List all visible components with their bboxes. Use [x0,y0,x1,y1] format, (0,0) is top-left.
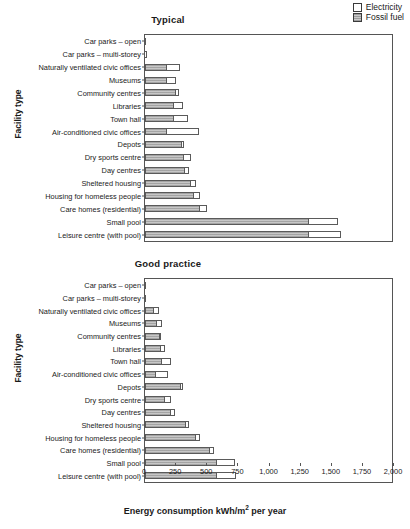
stacked-bar[interactable] [145,320,162,327]
x-axis-tick [362,463,363,466]
stacked-bar[interactable] [145,128,199,135]
y-axis-tick [142,374,145,375]
bar-segment-electricity [161,358,171,365]
stacked-bar[interactable] [145,77,176,84]
bar-segment-fossil-fuel [145,383,181,390]
panel-title-typical: Typical [18,14,318,25]
stacked-bar[interactable] [145,396,171,403]
bar-segment-fossil-fuel [145,128,167,135]
bar-segment-fossil-fuel [145,180,191,187]
x-axis-tick [393,463,394,466]
bar-row: Car parks – open [145,35,392,48]
x-axis-tick-label: 1,750 [353,467,372,476]
bar-segment-electricity [199,205,208,212]
bar-segment-fossil-fuel [145,218,309,225]
bar-segment-fossil-fuel [145,192,194,199]
stacked-bar[interactable] [145,307,159,314]
bar-row: Care homes (residential) [145,202,392,215]
y-axis-tick [142,323,145,324]
y-axis-tick-label: Care homes (residential) [60,204,141,213]
bar-segment-electricity [209,447,215,454]
bar-segment-electricity [195,434,200,441]
bar-segment-electricity [173,115,188,122]
stacked-bar[interactable] [145,345,165,352]
y-axis-tick-label: Car parks – open [84,37,141,46]
bar-row: Day centres [145,406,392,419]
stacked-bar[interactable] [145,205,207,212]
y-axis-tick [142,412,145,413]
stacked-bar[interactable] [145,51,147,58]
bar-row: Housing for homeless people [145,190,392,203]
x-axis-tick [206,463,207,466]
legend-swatch-electricity-icon [353,3,362,12]
y-axis-tick-label: Town hall [110,357,141,366]
y-axis-tick-label: Day centres [102,408,141,417]
y-axis-tick-label: Museums [109,319,141,328]
bar-rows-good-practice: Car parks – openCar parks – multi-storey… [145,279,392,482]
bar-segment-fossil-fuel [145,205,200,212]
bar-row: Naturally ventilated civic offices [145,304,392,317]
bar-segment-fossil-fuel [145,396,165,403]
y-axis-tick [142,41,145,42]
stacked-bar[interactable] [145,167,189,174]
stacked-bar[interactable] [145,282,146,289]
stacked-bar[interactable] [145,383,183,390]
stacked-bar[interactable] [145,218,338,225]
y-axis-label-typical: Facility type [13,69,23,159]
bar-segment-electricity [160,345,164,352]
bar-row: Sheltered housing [145,177,392,190]
bar-segment-fossil-fuel [145,333,160,340]
bar-row: Libraries [145,342,392,355]
y-axis-tick-label: Care homes (residential) [60,446,141,455]
y-axis-tick [142,221,145,222]
stacked-bar[interactable] [145,333,161,340]
stacked-bar[interactable] [145,192,200,199]
stacked-bar[interactable] [145,89,179,96]
y-axis-tick-label: Community centres [77,88,141,97]
y-axis-tick [142,105,145,106]
y-axis-tick [142,183,145,184]
y-axis-tick [142,131,145,132]
stacked-bar[interactable] [145,64,180,71]
stacked-bar[interactable] [145,102,183,109]
bar-segment-electricity [190,180,196,187]
y-axis-tick-label: Car parks – open [84,281,141,290]
plot-area-typical: Car parks – openCar parks – multi-storey… [144,34,393,242]
x-axis-label-main: Energy consumption kWh/m [124,506,246,516]
stacked-bar[interactable] [145,154,191,161]
stacked-bar[interactable] [145,472,236,479]
y-axis-tick-label: Museums [109,76,141,85]
bar-rows-typical: Car parks – openCar parks – multi-storey… [145,35,392,241]
stacked-bar[interactable] [145,459,235,466]
stacked-bar[interactable] [145,115,188,122]
stacked-bar[interactable] [145,447,214,454]
stacked-bar[interactable] [145,231,341,238]
bar-row: Day centres [145,164,392,177]
stacked-bar[interactable] [145,421,189,428]
bar-segment-fossil-fuel [145,358,162,365]
stacked-bar[interactable] [145,371,168,378]
y-axis-tick-label: Dry sports centre [85,153,141,162]
bar-segment-fossil-fuel [145,421,186,428]
stacked-bar[interactable] [145,409,175,416]
stacked-bar[interactable] [145,38,146,45]
y-axis-tick [142,336,145,337]
y-axis-tick-label: Leisure centre (with pool) [58,230,141,239]
stacked-bar[interactable] [145,141,184,148]
stacked-bar[interactable] [145,295,146,302]
stacked-bar[interactable] [145,180,196,187]
x-axis-tick-label: 250 [169,467,181,476]
stacked-bar[interactable] [145,358,171,365]
x-axis-tick-label: 500 [200,467,212,476]
bar-row: Leisure centre (with pool) [145,228,392,241]
bar-row: Dry sports centre [145,393,392,406]
y-axis-tick-label: Community centres [77,332,141,341]
y-axis-tick [142,234,145,235]
bar-segment-electricity [159,333,161,340]
y-axis-tick-label: Small pool [106,458,141,467]
stacked-bar[interactable] [145,434,200,441]
bar-segment-electricity [183,154,192,161]
y-axis-tick [142,118,145,119]
y-axis-tick-label: Leisure centre (with pool) [58,471,141,480]
y-axis-tick-label: Car parks – multi-storey [63,50,141,59]
